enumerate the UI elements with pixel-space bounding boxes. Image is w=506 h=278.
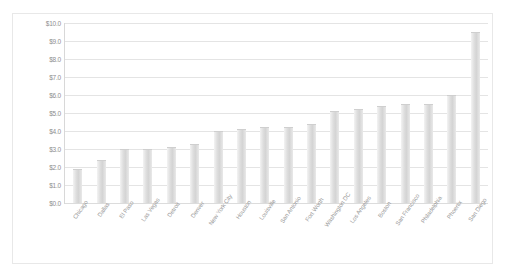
x-axis-slot: Louisville — [253, 204, 276, 274]
bar-slot — [253, 23, 276, 203]
y-axis-tick-label: $6.0 — [27, 92, 61, 99]
bar-slot — [206, 23, 229, 203]
bar-slot — [230, 23, 253, 203]
bar-slot — [300, 23, 323, 203]
bar[interactable] — [143, 149, 152, 203]
bar[interactable] — [330, 111, 339, 203]
bar[interactable] — [424, 104, 433, 203]
bar[interactable] — [354, 109, 363, 203]
bar[interactable] — [73, 169, 82, 203]
bar[interactable] — [190, 144, 199, 203]
bar[interactable] — [214, 131, 223, 203]
x-axis-slot: Houston — [230, 204, 253, 274]
y-axis-tick-label: $4.0 — [27, 128, 61, 135]
x-axis-slot: Denver — [183, 204, 206, 274]
y-axis-tick-label: $3.0 — [27, 146, 61, 153]
bar-slot — [89, 23, 112, 203]
y-axis: $10.0$9.0$8.0$7.0$6.0$5.0$4.0$3.0$2.0$1.… — [27, 14, 61, 263]
bar[interactable] — [167, 147, 176, 203]
x-axis-slot: Dallas — [89, 204, 112, 274]
x-axis: ChicagoDallasEl PasoLas VegasDetroitDenv… — [65, 204, 488, 274]
bar-slot — [160, 23, 183, 203]
x-axis-slot: Philadelphia — [417, 204, 440, 274]
x-axis-slot: Los Angeles — [347, 204, 370, 274]
x-axis-tick-label: Boston — [377, 201, 392, 219]
bar[interactable] — [284, 127, 293, 203]
y-axis-tick-label: $1.0 — [27, 182, 61, 189]
y-axis-tick-label: $8.0 — [27, 56, 61, 63]
bar[interactable] — [447, 95, 456, 203]
x-axis-slot: Las Vegas — [136, 204, 159, 274]
bar[interactable] — [120, 149, 129, 203]
x-axis-slot: Fort Worth — [300, 204, 323, 274]
bar[interactable] — [97, 160, 106, 203]
bar[interactable] — [377, 106, 386, 203]
bar-slot — [464, 23, 487, 203]
bar-slot — [183, 23, 206, 203]
bar-slot — [113, 23, 136, 203]
bar-slot — [393, 23, 416, 203]
x-axis-tick-label: Denver — [189, 200, 205, 219]
bar[interactable] — [237, 129, 246, 203]
bar-series — [65, 23, 488, 203]
bar-slot — [136, 23, 159, 203]
y-axis-tick-label: $5.0 — [27, 110, 61, 117]
bar[interactable] — [471, 32, 480, 203]
bar[interactable] — [260, 127, 269, 203]
x-axis-tick-label: Dallas — [96, 201, 110, 218]
y-axis-tick-label: $9.0 — [27, 38, 61, 45]
plot-area — [65, 23, 488, 203]
x-axis-slot: Detroit — [160, 204, 183, 274]
x-axis-slot: San Diego — [464, 204, 487, 274]
y-axis-tick-label: $10.0 — [27, 20, 61, 27]
bar[interactable] — [401, 104, 410, 203]
bar-slot — [440, 23, 463, 203]
x-axis-slot: New York City — [206, 204, 229, 274]
bar-slot — [347, 23, 370, 203]
x-axis-tick-label: Detroit — [166, 201, 181, 218]
bar[interactable] — [307, 124, 316, 203]
bar-slot — [417, 23, 440, 203]
y-axis-tick-label: $0.0 — [27, 200, 61, 207]
x-axis-slot: El Paso — [113, 204, 136, 274]
chart-frame: $10.0$9.0$8.0$7.0$6.0$5.0$4.0$3.0$2.0$1.… — [12, 13, 493, 264]
x-axis-slot: Phoenix — [440, 204, 463, 274]
x-axis-slot: San Francisco — [393, 204, 416, 274]
x-axis-slot: Boston — [370, 204, 393, 274]
bar-slot — [66, 23, 89, 203]
bar-slot — [370, 23, 393, 203]
x-axis-slot: San Antonio — [277, 204, 300, 274]
y-axis-tick-label: $2.0 — [27, 164, 61, 171]
x-axis-slot: Chicago — [66, 204, 89, 274]
y-axis-tick-label: $7.0 — [27, 74, 61, 81]
bar-slot — [323, 23, 346, 203]
bar-slot — [277, 23, 300, 203]
x-axis-slot: Washington DC — [323, 204, 346, 274]
